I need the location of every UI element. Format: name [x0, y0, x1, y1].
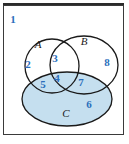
venn-shapes-canvas	[0, 0, 129, 144]
set-label-b: B	[81, 36, 88, 47]
region-number-4: 4	[54, 73, 60, 84]
venn-diagram-figure: A B C 1 2 3 4 5 6 7 8	[0, 0, 129, 144]
region-number-6: 6	[86, 99, 92, 110]
region-number-8: 8	[104, 57, 110, 68]
region-number-5: 5	[40, 79, 46, 90]
region-number-7: 7	[78, 77, 84, 88]
region-number-2: 2	[25, 59, 31, 70]
set-label-a: A	[35, 39, 42, 50]
set-label-c: C	[62, 108, 69, 119]
region-number-3: 3	[52, 53, 58, 64]
region-number-1: 1	[10, 14, 16, 25]
